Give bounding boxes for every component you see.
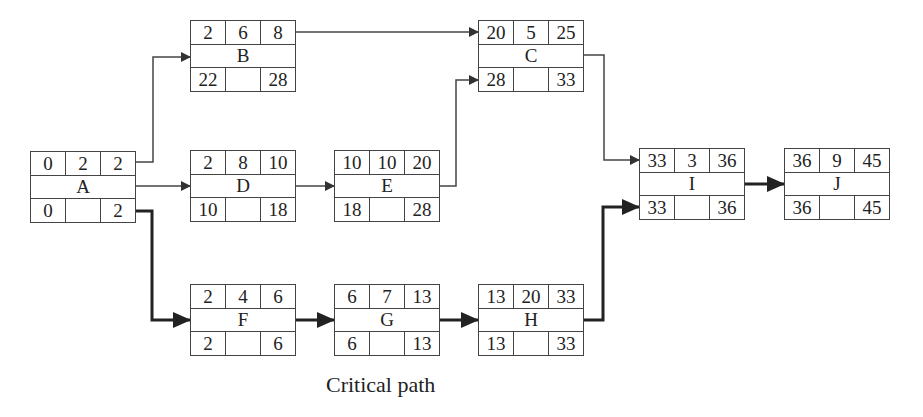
node-i-es: 33 <box>640 149 675 172</box>
node-j-lf: 45 <box>855 196 889 219</box>
node-a-ef: 2 <box>101 152 135 175</box>
node-h-lf: 33 <box>549 332 583 355</box>
node-c-duration: 5 <box>514 21 549 44</box>
node-f-lf: 6 <box>261 332 295 355</box>
node-a-lf: 2 <box>101 199 135 222</box>
node-a-blank <box>66 199 101 222</box>
node-c-ls: 28 <box>479 68 514 91</box>
node-d-es: 2 <box>191 151 226 174</box>
node-i-duration: 3 <box>675 149 710 172</box>
node-g-lf: 13 <box>405 332 439 355</box>
node-f-ef: 6 <box>261 285 295 308</box>
node-f-label: F <box>238 309 249 331</box>
node-g-es: 6 <box>335 285 370 308</box>
node-c: 20525 C 2833 <box>478 20 584 92</box>
node-h-label: H <box>524 309 538 331</box>
edge-a-f <box>136 211 190 320</box>
node-f-ls: 2 <box>191 332 226 355</box>
node-g-label: G <box>380 309 394 331</box>
node-i-ls: 33 <box>640 196 675 219</box>
node-e-lf: 28 <box>405 198 439 221</box>
node-j-label: J <box>833 173 840 195</box>
node-f: 246 F 26 <box>190 284 296 356</box>
node-b-label: B <box>237 45 250 67</box>
node-f-duration: 4 <box>226 285 261 308</box>
node-j-ef: 45 <box>855 149 889 172</box>
node-b-lf: 28 <box>261 68 295 91</box>
node-e-blank <box>370 198 405 221</box>
node-g-duration: 7 <box>370 285 405 308</box>
node-e-label: E <box>381 175 393 197</box>
node-e-ef: 20 <box>405 151 439 174</box>
node-b-es: 2 <box>191 21 226 44</box>
node-d-lf: 18 <box>261 198 295 221</box>
node-a-duration: 2 <box>66 152 101 175</box>
network-diagram: 022 A 02 268 B 2228 20525 C 2833 2810 D … <box>0 0 923 417</box>
node-i-blank <box>675 196 710 219</box>
node-h-es: 13 <box>479 285 514 308</box>
node-g-ls: 6 <box>335 332 370 355</box>
edge-e-c <box>440 80 478 186</box>
node-b-duration: 6 <box>226 21 261 44</box>
node-b-blank <box>226 68 261 91</box>
node-g: 6713 G 613 <box>334 284 440 356</box>
edge-h-i <box>584 207 639 320</box>
node-e-ls: 18 <box>335 198 370 221</box>
node-d-duration: 8 <box>226 151 261 174</box>
node-j-ls: 36 <box>785 196 820 219</box>
node-j-blank <box>820 196 855 219</box>
node-d-label: D <box>236 175 250 197</box>
node-e: 101020 E 1828 <box>334 150 440 222</box>
node-e-es: 10 <box>335 151 370 174</box>
node-i-label: I <box>689 173 695 195</box>
node-h-ls: 13 <box>479 332 514 355</box>
node-h-duration: 20 <box>514 285 549 308</box>
node-f-blank <box>226 332 261 355</box>
critical-path-caption: Critical path <box>326 372 435 398</box>
node-j-duration: 9 <box>820 149 855 172</box>
node-b-ls: 22 <box>191 68 226 91</box>
node-i-lf: 36 <box>710 196 744 219</box>
node-c-ef: 25 <box>549 21 583 44</box>
node-j-es: 36 <box>785 149 820 172</box>
node-b: 268 B 2228 <box>190 20 296 92</box>
node-f-es: 2 <box>191 285 226 308</box>
node-i-ef: 36 <box>710 149 744 172</box>
node-a-es: 0 <box>31 152 66 175</box>
node-j: 36945 J 3645 <box>784 148 890 220</box>
node-d-ef: 10 <box>261 151 295 174</box>
edge-c-i <box>584 55 639 160</box>
node-a-label: A <box>76 176 90 198</box>
node-c-es: 20 <box>479 21 514 44</box>
node-h: 132033 H 1333 <box>478 284 584 356</box>
node-d: 2810 D 1018 <box>190 150 296 222</box>
node-c-blank <box>514 68 549 91</box>
edge-a-b <box>136 57 190 162</box>
node-c-lf: 33 <box>549 68 583 91</box>
node-i: 33336 I 3336 <box>639 148 745 220</box>
node-h-ef: 33 <box>549 285 583 308</box>
node-b-ef: 8 <box>261 21 295 44</box>
node-c-label: C <box>525 45 538 67</box>
node-a-ls: 0 <box>31 199 66 222</box>
node-g-ef: 13 <box>405 285 439 308</box>
node-e-duration: 10 <box>370 151 405 174</box>
node-d-ls: 10 <box>191 198 226 221</box>
node-d-blank <box>226 198 261 221</box>
node-a: 022 A 02 <box>30 151 136 223</box>
node-h-blank <box>514 332 549 355</box>
node-g-blank <box>370 332 405 355</box>
